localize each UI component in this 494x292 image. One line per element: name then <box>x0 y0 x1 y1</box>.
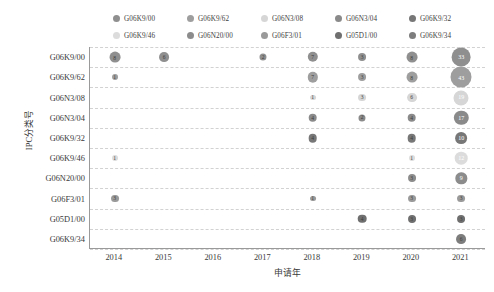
bubble-value-label: 1 <box>311 95 314 101</box>
y-axis-tick-g05d1-00: G05D1/00 <box>13 214 85 223</box>
bubble-value-label: 1 <box>113 74 116 80</box>
bubble-value-label: 1 <box>311 196 314 202</box>
legend-swatch-icon <box>113 32 120 39</box>
gridline <box>90 87 485 88</box>
bubble-point[interactable]: 1 <box>112 74 118 80</box>
legend-item-label: G06K9/34 <box>420 32 451 40</box>
bubble-point[interactable]: 7 <box>308 72 318 82</box>
bubble-point[interactable]: 3 <box>358 73 366 81</box>
x-axis-tick-2015: 2015 <box>143 252 183 263</box>
legend-row: G06K9/00G06K9/62G06N3/08G06N3/04G06K9/32 <box>113 10 485 27</box>
bubble-point[interactable]: 4 <box>407 113 416 122</box>
gridline <box>90 188 485 189</box>
bubble-point[interactable]: 10 <box>455 132 467 144</box>
legend-item-g06k9-62[interactable]: G06K9/62 <box>187 10 261 27</box>
bubble-value-label: 3 <box>460 216 463 222</box>
legend-item-label: G05D1/00 <box>346 32 377 40</box>
x-axis-tick-2020: 2020 <box>391 252 431 263</box>
legend-item-g05d1-00[interactable]: G05D1/00 <box>335 27 409 44</box>
bubble-point[interactable]: 6 <box>407 93 417 103</box>
bubble-point[interactable]: 8 <box>406 52 417 63</box>
bubble-point[interactable]: 43 <box>451 67 472 88</box>
legend-swatch-icon <box>261 15 268 22</box>
bubble-value-label: 3 <box>361 74 364 80</box>
legend-item-g06n20-00[interactable]: G06N20/00 <box>187 27 261 44</box>
bubble-point[interactable]: 1 <box>310 95 316 101</box>
x-axis-title: 申请年 <box>89 266 485 279</box>
y-axis-tick-g06k9-00: G06K9/00 <box>13 53 85 62</box>
legend-row: G06K9/46G06N20/00G06F3/01G05D1/00G06K9/3… <box>113 27 485 44</box>
bubble-point[interactable]: 3 <box>408 174 416 182</box>
y-axis-tick-g06n3-04: G06N3/04 <box>13 113 85 122</box>
legend-swatch-icon <box>335 15 342 22</box>
bubble-value-label: 8 <box>410 54 413 60</box>
bubble-point[interactable]: 6 <box>159 52 169 62</box>
chart-legend: G06K9/00G06K9/62G06N3/08G06N3/04G06K9/32… <box>113 10 485 44</box>
legend-item-label: G06K9/62 <box>198 15 229 23</box>
bubble-value-label: 2 <box>361 115 364 121</box>
x-axis-tick-2017: 2017 <box>242 252 282 263</box>
bubble-point[interactable]: 3 <box>457 215 465 223</box>
bubble-point[interactable]: 1 <box>409 155 415 161</box>
bubble-point[interactable]: 4 <box>308 113 317 122</box>
bubble-point[interactable]: 3 <box>408 215 416 223</box>
bubble-value-label: 6 <box>460 236 463 242</box>
bubble-value-label: 8 <box>410 74 413 80</box>
bubble-point[interactable]: 3 <box>408 195 416 203</box>
gridline <box>90 229 485 230</box>
legend-item-g06k9-00[interactable]: G06K9/00 <box>113 10 187 27</box>
bubble-point[interactable]: 9 <box>456 173 467 184</box>
bubble-point[interactable]: 6 <box>456 234 466 244</box>
gridline <box>90 249 485 250</box>
y-axis-tick-g06k9-62: G06K9/62 <box>13 73 85 82</box>
gridline <box>90 168 485 169</box>
gridline <box>90 148 485 149</box>
legend-swatch-icon <box>187 32 194 39</box>
bubble-point[interactable]: 4 <box>407 134 416 143</box>
bubble-point[interactable]: 19 <box>454 90 469 105</box>
legend-item-g06f3-01[interactable]: G06F3/01 <box>261 27 335 44</box>
bubble-point[interactable]: 8 <box>109 52 120 63</box>
bubble-point[interactable]: 4 <box>358 214 367 223</box>
bubble-value-label: 6 <box>163 54 166 60</box>
bubble-point[interactable]: 2 <box>359 114 366 121</box>
bubble-point[interactable]: 12 <box>455 152 468 165</box>
legend-item-g06n3-04[interactable]: G06N3/04 <box>335 10 409 27</box>
legend-item-g06k9-34[interactable]: G06K9/34 <box>409 27 483 44</box>
y-axis-tick-g06f3-01: G06F3/01 <box>13 194 85 203</box>
legend-swatch-icon <box>335 32 342 39</box>
bubble-value-label: 1 <box>113 155 116 161</box>
legend-item-g06n3-08[interactable]: G06N3/08 <box>261 10 335 27</box>
bubble-point[interactable]: 3 <box>358 53 366 61</box>
plot-area: 8627383317384313619424174410111239313343… <box>89 47 485 249</box>
bubble-value-label: 2 <box>262 54 265 60</box>
bubble-value-label: 6 <box>410 95 413 101</box>
bubble-value-label: 4 <box>311 115 314 121</box>
x-axis-tick-2021: 2021 <box>440 252 480 263</box>
legend-item-label: G06K9/46 <box>124 32 155 40</box>
bubble-point[interactable]: 7 <box>308 52 318 62</box>
bubble-value-label: 33 <box>458 54 464 60</box>
bubble-point[interactable]: 33 <box>452 48 471 67</box>
legend-item-g06k9-46[interactable]: G06K9/46 <box>113 27 187 44</box>
gridline <box>90 209 485 210</box>
bubble-point[interactable]: 17 <box>454 110 468 124</box>
bubble-point[interactable]: 1 <box>112 155 118 161</box>
bubble-point[interactable]: 3 <box>111 195 119 203</box>
gridline <box>90 47 485 48</box>
legend-item-label: G06N3/04 <box>346 15 377 23</box>
legend-swatch-icon <box>261 32 268 39</box>
bubble-point[interactable]: 1 <box>310 196 316 202</box>
bubble-value-label: 3 <box>410 175 413 181</box>
bubble-value-label: 10 <box>458 135 464 141</box>
bubble-point[interactable]: 2 <box>260 54 267 61</box>
bubble-point[interactable]: 3 <box>457 195 465 203</box>
bubble-point[interactable]: 8 <box>406 72 417 83</box>
bubble-point[interactable]: 3 <box>358 94 366 102</box>
bubble-chart: G06K9/00G06K9/62G06N3/08G06N3/04G06K9/32… <box>0 0 494 292</box>
legend-item-g06k9-32[interactable]: G06K9/32 <box>409 10 483 27</box>
bubble-value-label: 19 <box>458 95 464 101</box>
x-axis-tick-2014: 2014 <box>94 252 134 263</box>
bubble-point[interactable]: 4 <box>308 134 317 143</box>
bubble-value-label: 3 <box>410 195 413 201</box>
